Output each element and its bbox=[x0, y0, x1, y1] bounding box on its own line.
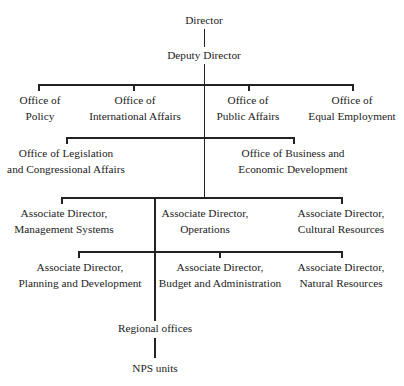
tick-planning bbox=[78, 251, 80, 258]
node-ad-operations: Associate Director, Operations bbox=[162, 205, 249, 237]
connector-director-deputy bbox=[204, 29, 206, 47]
connector-offices-bar bbox=[38, 84, 353, 86]
connector-associate-row1-bar bbox=[61, 197, 342, 199]
node-deputy-director: Deputy Director bbox=[167, 47, 241, 63]
tick-cultural bbox=[341, 197, 343, 204]
node-office-business: Office of Business and Economic Developm… bbox=[238, 145, 347, 177]
connector-regional-nps bbox=[154, 338, 156, 358]
tick-equal bbox=[352, 84, 354, 91]
tick-natural bbox=[341, 251, 343, 258]
tick-budget bbox=[219, 251, 221, 258]
node-office-policy: Office of Policy bbox=[20, 92, 61, 124]
node-ad-natural: Associate Director, Natural Resources bbox=[298, 259, 385, 291]
tick-business bbox=[293, 137, 295, 144]
node-regional-offices: Regional offices bbox=[118, 320, 192, 336]
node-office-international: Office of International Affairs bbox=[89, 92, 181, 124]
node-office-equal: Office of Equal Employment bbox=[308, 92, 396, 124]
connector-associate-row2-bar bbox=[78, 251, 342, 253]
connector-legislation-business-bar bbox=[66, 137, 294, 139]
node-ad-budget: Associate Director, Budget and Administr… bbox=[159, 259, 281, 291]
tick-public bbox=[248, 84, 250, 91]
node-office-public: Office of Public Affairs bbox=[217, 92, 280, 124]
node-ad-management: Associate Director, Management Systems bbox=[14, 205, 113, 237]
node-office-legislation: Office of Legislation and Congressional … bbox=[7, 145, 125, 177]
tick-international bbox=[133, 84, 135, 91]
node-director: Director bbox=[185, 12, 223, 28]
node-ad-cultural: Associate Director, Cultural Resources bbox=[298, 205, 385, 237]
connector-secondary-trunk bbox=[154, 197, 156, 321]
node-ad-planning: Associate Director, Planning and Develop… bbox=[19, 259, 142, 291]
node-nps-units: NPS units bbox=[132, 360, 178, 376]
tick-policy bbox=[38, 84, 40, 91]
tick-management bbox=[61, 197, 63, 204]
tick-legislation bbox=[66, 137, 68, 144]
